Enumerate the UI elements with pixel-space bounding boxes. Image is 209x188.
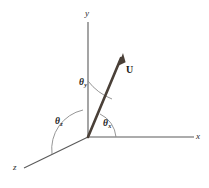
theta-y-label: θy [79,78,87,88]
y-axis-label: y [85,9,89,18]
vector-u-label: U [126,65,133,75]
figure-canvas [0,0,209,188]
z-axis-line [24,137,88,168]
theta-z-subscript: z [60,120,62,127]
theta-x-label: θx [103,119,111,129]
theta-z-label: θz [55,117,62,127]
theta-x-subscript: x [108,122,111,129]
x-axis-label: x [196,132,200,141]
theta-y-subscript: y [84,81,87,88]
z-axis-label: z [13,163,17,172]
vector-direction-angles-figure: y x z U θy θz θx [0,0,209,188]
